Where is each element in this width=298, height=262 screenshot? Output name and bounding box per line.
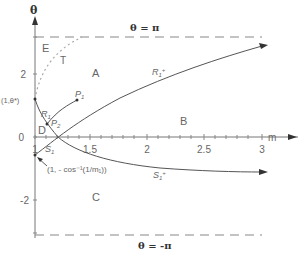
curve-S1-plus: [35, 99, 262, 172]
x-tick-2-5: 2.5: [197, 144, 211, 155]
x-tick-2: 2: [144, 144, 150, 155]
point-cos: [34, 154, 37, 157]
label-S1-plus: S1+: [153, 170, 166, 181]
r1-plus-arrow-icon: [259, 43, 268, 49]
s1-plus-arrow-icon: [259, 169, 268, 175]
x-tick-1-5: 1.5: [83, 144, 97, 155]
theta-axis-label: θ: [30, 4, 37, 17]
label-theta-star: (1,θ*): [1, 96, 20, 105]
region-B: B: [180, 115, 187, 127]
curve-R1-plus: [35, 46, 262, 155]
theta-pi-label: θ = π: [130, 22, 159, 33]
region-E: E: [42, 42, 49, 54]
y-tick-0: 0: [18, 132, 24, 143]
theta-axis-arrow-icon: [32, 16, 38, 25]
region-C: C: [92, 191, 100, 203]
label-P2: P2: [51, 118, 61, 129]
label-R1: R1: [41, 109, 51, 120]
point-theta-star: [34, 98, 37, 101]
x-tick-3: 3: [259, 144, 265, 155]
m-axis-arrow-icon: [288, 134, 297, 140]
label-T: T: [60, 55, 66, 66]
label-R1-plus: R1+: [152, 67, 166, 78]
theta-neg-pi-label: θ = -π: [138, 240, 171, 251]
label-P1: P1: [75, 89, 84, 100]
region-D: D: [38, 124, 46, 136]
y-tick-neg2: -2: [20, 195, 29, 206]
m-axis-label: m: [268, 132, 276, 143]
label-cos: (1, - cos⁻¹(1/m₁)): [47, 165, 107, 174]
phase-diagram: θ m 1 1.5 2 2.5 3 2 0 -2 θ = π θ = -π T …: [0, 0, 298, 262]
y-tick-2: 2: [20, 69, 26, 80]
label-S1: S1: [45, 144, 54, 155]
region-A: A: [92, 67, 100, 79]
